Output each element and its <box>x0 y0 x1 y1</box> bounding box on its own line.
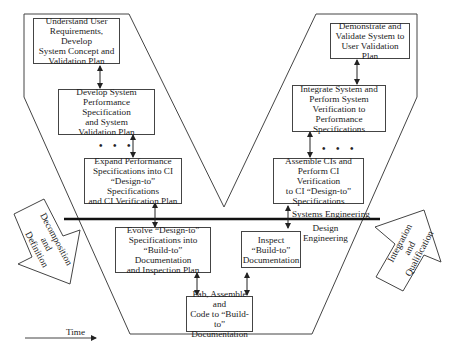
design-engineering-label: Design Engineering <box>303 223 348 243</box>
time-label: Time <box>66 327 85 337</box>
step-understand-requirements: Understand User Requirements, Develop Sy… <box>33 18 120 64</box>
step-demonstrate-validate: Demonstrate and Validate System to User … <box>330 23 410 59</box>
step-assemble-cis: Assemble CIs and Perform CI Verification… <box>273 158 364 204</box>
step-inspect-build-to: Inspect “Build-to” Documentation <box>241 231 301 268</box>
step-fab-assemble-code: Fab, Assemble and Code to “Build-to” Doc… <box>186 296 253 332</box>
ellipsis-left: • • • <box>99 140 135 151</box>
step-develop-performance-spec: Develop System Performance Specification… <box>58 89 155 135</box>
step-evolve-design-to: Evolve “Design-to” Specifications into “… <box>115 227 211 273</box>
systems-engineering-label: Systems Engineering <box>292 209 370 219</box>
step-expand-specifications: Expand Performance Specifications into C… <box>84 158 182 204</box>
step-integrate-system: Integrate System and Perform System Veri… <box>292 85 386 132</box>
ellipsis-right: • • • <box>322 143 358 154</box>
